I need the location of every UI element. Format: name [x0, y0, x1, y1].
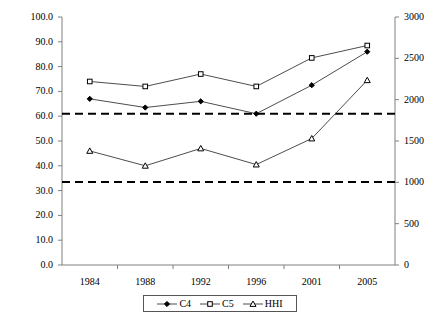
legend-marker-filled-diamond	[157, 299, 177, 309]
legend-label: C5	[222, 299, 234, 309]
y-axis-left-label: 60.0	[0, 111, 53, 121]
series-c4	[87, 49, 370, 116]
marker-filled-diamond	[143, 105, 148, 110]
y-axis-left-label: 100.0	[0, 12, 53, 22]
y-axis-left-label: 50.0	[0, 136, 53, 146]
y-axis-left-label: 20.0	[0, 210, 53, 220]
y-axis-right-label: 2000	[404, 95, 424, 105]
legend-label: C4	[179, 299, 191, 309]
marker-filled-diamond	[87, 96, 92, 101]
x-axis-label: 2005	[340, 277, 396, 287]
y-axis-right-label: 500	[404, 219, 419, 229]
legend-item-hhi[interactable]: HHI	[243, 299, 283, 309]
x-axis-label: 2001	[284, 277, 340, 287]
y-axis-left-label: 10.0	[0, 235, 53, 245]
y-axis-right-label: 3000	[404, 12, 424, 22]
marker-open-square	[208, 301, 213, 306]
legend-marker-open-triangle	[243, 299, 263, 309]
chart-container: 0.010.020.030.040.050.060.070.080.090.01…	[0, 0, 445, 319]
y-axis-left-label: 90.0	[0, 37, 53, 47]
x-axis-label: 1988	[118, 277, 174, 287]
y-axis-left-label: 0.0	[0, 260, 53, 270]
plot-area	[0, 0, 445, 319]
marker-open-triangle	[364, 77, 370, 82]
y-axis-left-label: 70.0	[0, 86, 53, 96]
x-axis-label: 1996	[229, 277, 285, 287]
legend-item-c4[interactable]: C4	[157, 299, 191, 309]
x-axis-label: 1992	[173, 277, 229, 287]
marker-filled-diamond	[198, 99, 203, 104]
y-axis-left-label: 80.0	[0, 62, 53, 72]
marker-open-square	[143, 84, 148, 89]
chart-legend: C4C5HHI	[143, 295, 297, 312]
y-axis-right-label: 1000	[404, 177, 424, 187]
axes	[58, 17, 399, 269]
x-axis-label: 1984	[62, 277, 118, 287]
marker-open-triangle	[198, 145, 204, 150]
series-hhi	[87, 77, 371, 168]
legend-label: HHI	[265, 299, 283, 309]
y-axis-right-label: 0	[404, 260, 409, 270]
y-axis-left-label: 40.0	[0, 161, 53, 171]
marker-open-square	[365, 43, 370, 48]
marker-open-square	[87, 79, 92, 84]
y-axis-right-label: 1500	[404, 136, 424, 146]
y-axis-right-label: 2500	[404, 53, 424, 63]
marker-filled-diamond	[309, 83, 314, 88]
y-axis-left-label: 30.0	[0, 186, 53, 196]
threshold-lines	[62, 114, 395, 182]
marker-open-square	[309, 56, 314, 61]
marker-open-triangle	[87, 148, 93, 153]
data-series	[87, 43, 371, 168]
marker-filled-diamond	[254, 111, 259, 116]
series-c5	[87, 43, 369, 89]
marker-filled-diamond	[165, 301, 170, 306]
marker-open-square	[254, 84, 259, 89]
marker-open-square	[198, 72, 203, 77]
marker-filled-diamond	[365, 49, 370, 54]
legend-item-c5[interactable]: C5	[200, 299, 234, 309]
legend-marker-open-square	[200, 299, 220, 309]
